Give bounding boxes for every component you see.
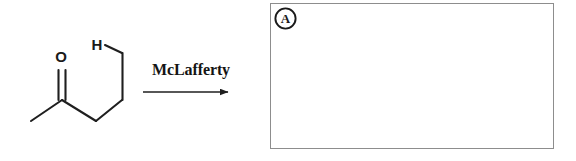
answer-box[interactable] bbox=[270, 3, 554, 149]
reaction-diagram: O H McLafferty A bbox=[0, 0, 576, 161]
reaction-arrow bbox=[0, 0, 260, 161]
marker-letter: A bbox=[281, 11, 291, 26]
answer-marker-circled-a: A bbox=[274, 7, 297, 30]
